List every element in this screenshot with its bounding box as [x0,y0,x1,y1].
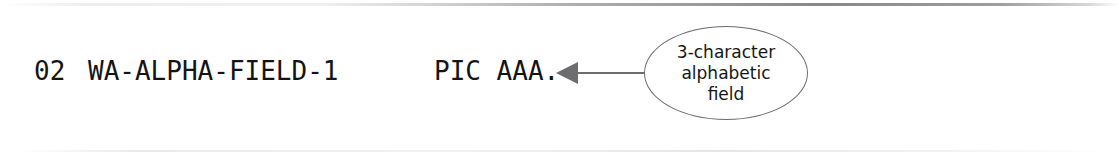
callout-line-2: alphabetic [681,63,770,84]
data-item-level-number: 02 [34,56,65,86]
callout-text-block: 3-character alphabetic field [644,26,808,120]
picture-clause: PIC AAA. [434,56,559,86]
annotation-callout: 3-character alphabetic field [644,26,808,120]
scan-artifact-bottom-edge [18,150,1108,152]
callout-line-3: field [708,84,745,105]
data-item-name: WA-ALPHA-FIELD-1 [88,56,338,86]
annotated-cobol-source-figure: 02 WA-ALPHA-FIELD-1 PIC AAA. 3-character… [0,0,1119,157]
annotation-leader-line [576,72,646,74]
callout-line-1: 3-character [677,42,775,63]
scan-artifact-top-edge [0,3,1119,6]
annotation-arrowhead-icon [556,62,578,84]
